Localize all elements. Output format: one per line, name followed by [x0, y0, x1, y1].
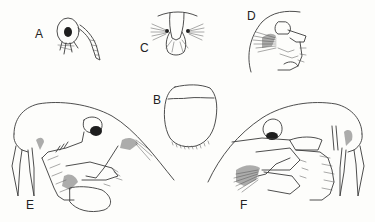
- larva-e-drawing: [12, 103, 174, 212]
- larva-d-drawing: [249, 11, 306, 72]
- larva-a-drawing: [57, 18, 100, 60]
- illustration-artwork: [0, 0, 375, 222]
- larva-f-drawing: [208, 103, 364, 200]
- illustration-figure: A B C D E F: [0, 0, 375, 222]
- larva-c-drawing: [151, 12, 204, 55]
- carapace-b-drawing: [164, 85, 216, 149]
